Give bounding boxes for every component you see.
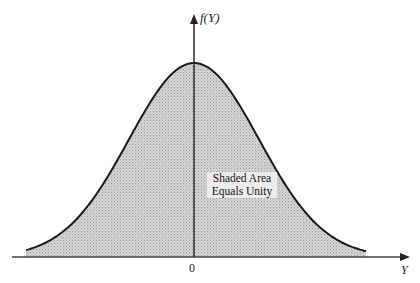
y-axis-label: f(Y): [200, 12, 220, 24]
annotation-line-2: Equals Unity: [207, 185, 277, 198]
annotation-line-1: Shaded Area: [207, 172, 277, 185]
x-axis-arrow-icon: [400, 253, 410, 261]
y-axis-arrow-icon: [190, 14, 198, 24]
shaded-area: [26, 63, 366, 257]
origin-tick-label: 0: [189, 262, 195, 274]
x-axis-label: Y: [401, 264, 408, 276]
normal-distribution-chart: [0, 0, 420, 283]
shaded-area-annotation: Shaded Area Equals Unity: [207, 172, 277, 198]
